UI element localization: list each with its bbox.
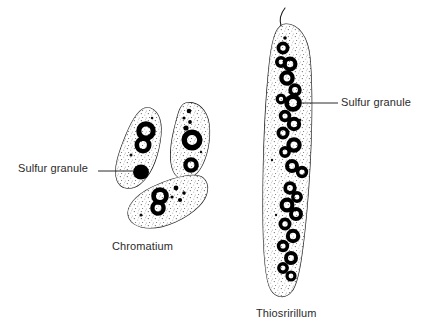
label-sulfur-granule-right: Sulfur granule xyxy=(341,96,411,108)
figure-container: Sulfur granule Sulfur granule Chromatium… xyxy=(0,0,424,331)
label-organism-chromatium: Chromatium xyxy=(112,240,173,252)
flagellum xyxy=(280,8,285,26)
label-sulfur-granule-left: Sulfur granule xyxy=(18,162,88,174)
chromatium-cell-left xyxy=(110,100,170,195)
thiospirillum-cell xyxy=(258,8,316,300)
sulfur-granule-solid xyxy=(133,165,149,180)
label-organism-thiospirillum: Thiosririllum xyxy=(256,307,317,319)
